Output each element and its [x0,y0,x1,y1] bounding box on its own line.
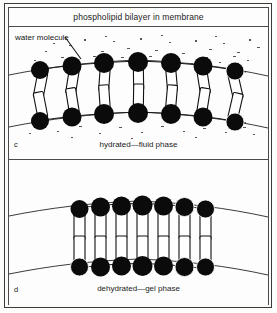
phospholipid [154,197,173,239]
phospholipid [91,236,110,277]
phospholipid [133,236,153,276]
phospholipid [31,91,49,130]
phospholipid [71,200,89,240]
phospholipid [175,198,194,240]
phospholipid [112,197,131,239]
banner: phospholipid bilayer in membrane [9,8,268,27]
panel-caption-gel: dehydrated—gel phase [9,284,268,293]
phospholipid [133,196,153,238]
banner-title: phospholipid bilayer in membrane [73,12,203,22]
phospholipid [112,236,131,276]
phospholipid [194,87,213,126]
figure-container: phospholipid bilayer in membrane water m… [0,0,277,313]
phospholipid [63,87,82,126]
panel-fluid-phase: water molecule c hydrated—fluid phase [9,27,268,160]
phospholipid [71,236,89,276]
panel-caption-fluid: hydrated—fluid phase [9,140,268,149]
lipid-upper-leaflet [71,196,215,241]
phospholipid [128,84,148,123]
phospholipid [161,85,181,124]
phospholipid [154,236,173,276]
water-specks [29,35,260,139]
phospholipid [91,198,110,240]
phospholipid [197,200,215,240]
panel-gel-phase: d dehydrated—gel phase [9,160,268,305]
phospholipid [197,236,215,276]
lipid-lower-leaflet [31,84,244,131]
phospholipid [175,236,194,277]
phospholipid [226,92,244,131]
phospholipid [94,85,114,124]
water-molecule-label: water molecule [15,33,69,42]
lipid-lower-leaflet [71,236,215,277]
